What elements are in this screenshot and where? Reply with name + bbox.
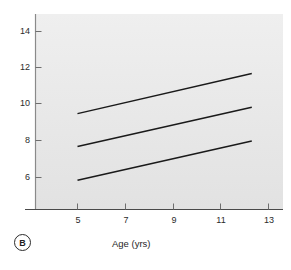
y-axis-ticks	[36, 32, 42, 178]
series-line-upper	[78, 73, 252, 113]
y-tick-label-14: 14	[10, 26, 30, 36]
x-axis-title: Age (yrs)	[112, 238, 151, 249]
chart-svg	[0, 0, 291, 270]
x-tick-label-5: 5	[68, 215, 88, 225]
x-axis-ticks	[78, 204, 269, 210]
data-series-group	[78, 73, 252, 180]
y-tick-label-12: 12	[10, 62, 30, 72]
series-line-middle	[78, 107, 252, 146]
series-line-lower	[78, 141, 252, 180]
x-tick-label-11: 11	[211, 215, 231, 225]
x-tick-label-7: 7	[116, 215, 136, 225]
panel-label-badge: B	[14, 234, 31, 251]
y-tick-label-10: 10	[10, 98, 30, 108]
x-tick-label-9: 9	[164, 215, 184, 225]
figure-panel-b: 14 12 10 8 6 5 7 9 11 13 Age (yrs) B	[0, 0, 291, 270]
y-tick-label-8: 8	[10, 135, 30, 145]
x-tick-label-13: 13	[259, 215, 279, 225]
y-tick-label-6: 6	[10, 172, 30, 182]
